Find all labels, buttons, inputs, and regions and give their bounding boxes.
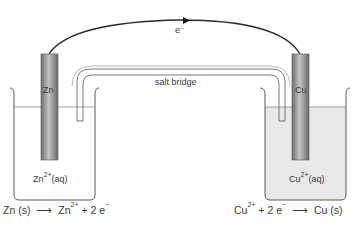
zinc-solution-state: (aq) xyxy=(52,174,68,184)
eq-product: Cu (s) xyxy=(314,204,343,216)
copper-ion: Cu xyxy=(289,174,301,184)
eq-reactant-charge: 2+ xyxy=(247,201,255,208)
reduction-half-equation: Cu2+ + 2 e− ⟶ Cu (s) xyxy=(234,204,343,216)
copper-ion-charge: 2+ xyxy=(301,171,309,178)
eq-plus: + xyxy=(81,204,87,216)
copper-electrode-label: Cu xyxy=(295,85,307,95)
eq-reactant-ion: Cu xyxy=(234,204,247,216)
zinc-electrode-label: Zn xyxy=(43,85,54,95)
zinc-electrode xyxy=(41,54,58,160)
eq-product-charge: 2+ xyxy=(71,201,79,208)
copper-solution-label: Cu2+(aq) xyxy=(289,174,325,184)
eq-product-ion: Zn xyxy=(58,204,70,216)
reaction-arrow-icon: ⟶ xyxy=(292,204,308,216)
copper-solution-state: (aq) xyxy=(309,174,325,184)
salt-bridge xyxy=(72,66,290,121)
oxidation-half-equation: Zn (s) ⟶ Zn2+ + 2 e− xyxy=(3,204,109,216)
eq-reactant: Zn (s) xyxy=(3,204,30,216)
eq-electron-charge: − xyxy=(282,201,286,208)
zinc-ion: Zn xyxy=(33,174,44,184)
salt-bridge-label: salt bridge xyxy=(155,77,197,87)
eq-electrons: 2 e xyxy=(91,204,106,216)
zinc-solution-label: Zn2+(aq) xyxy=(33,174,68,184)
eq-electrons: 2 e xyxy=(267,204,282,216)
reaction-arrow-icon: ⟶ xyxy=(36,204,52,216)
electron-flow-arrow-icon xyxy=(183,17,190,24)
zinc-ion-charge: 2+ xyxy=(44,171,52,178)
eq-electron-charge: − xyxy=(105,201,109,208)
copper-electrode xyxy=(292,54,309,160)
eq-plus: + xyxy=(258,204,264,216)
electron-label: e⁻ xyxy=(175,25,185,35)
